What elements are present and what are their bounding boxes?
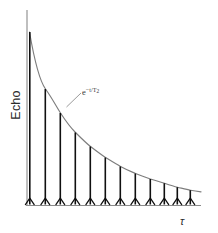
echo-decay-figure: e−t/T2 Echo τ (0, 0, 218, 233)
echo-spike (86, 147, 95, 205)
annotation-exponent: −t/T (86, 86, 97, 93)
echo-spike (173, 187, 182, 204)
echo-spikes-group (25, 32, 194, 205)
echo-spike (160, 183, 169, 204)
echo-spike (131, 174, 140, 205)
echo-spike (56, 113, 65, 205)
echo-spike (186, 190, 195, 204)
decay-curve-group (30, 32, 202, 192)
decay-equation-annotation: e−t/T2 (82, 86, 100, 97)
annotation-subscript: 2 (97, 88, 100, 94)
echo-spike (146, 179, 155, 205)
axes-group (26, 10, 201, 206)
echo-spike (101, 158, 110, 205)
x-axis-label: τ (180, 215, 185, 227)
echo-spike (71, 133, 80, 205)
echo-spike (41, 89, 50, 205)
annotation-leader-line (67, 93, 82, 107)
plot-canvas: e−t/T2 Echo τ (0, 0, 218, 233)
echo-spike (116, 167, 125, 205)
y-axis-label: Echo (9, 90, 23, 119)
exponential-decay-curve (30, 32, 202, 192)
